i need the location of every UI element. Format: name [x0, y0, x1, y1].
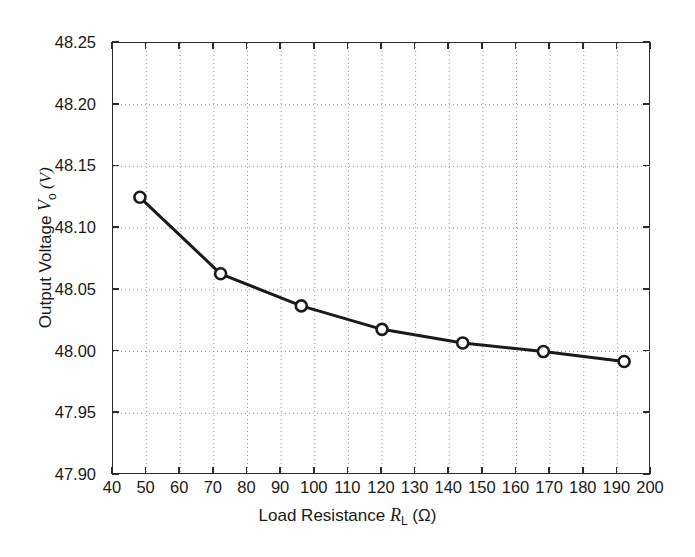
x-axis-tick: [447, 467, 449, 474]
x-axis-tick: [212, 467, 214, 474]
y-axis-tick: [643, 411, 650, 413]
x-axis-tick: [414, 42, 416, 49]
x-axis-tick: [246, 467, 248, 474]
x-tick-label: 200: [620, 478, 680, 497]
plot-area: [112, 42, 650, 474]
x-axis-tick: [313, 467, 315, 474]
y-axis-tick: [112, 288, 119, 290]
y-axis-tick: [112, 350, 119, 352]
y-axis-label-unit: (V): [36, 167, 55, 193]
y-axis-label-subscript: o: [45, 193, 59, 200]
x-axis-tick: [178, 467, 180, 474]
data-point-marker: [619, 356, 630, 367]
x-axis-tick: [347, 42, 349, 49]
y-axis-tick: [112, 41, 119, 43]
x-axis-tick: [145, 467, 147, 474]
y-axis-label-symbol: V: [35, 200, 55, 211]
y-axis-tick: [643, 473, 650, 475]
data-point-marker: [215, 268, 226, 279]
figure-canvas: 47.9047.9548.0048.0548.1048.1548.2048.25…: [0, 0, 695, 557]
x-axis-tick: [447, 42, 449, 49]
x-axis-tick: [582, 467, 584, 474]
y-axis-tick: [643, 226, 650, 228]
y-axis-label: Output Voltage Vo (V): [35, 32, 58, 464]
y-axis-tick: [643, 103, 650, 105]
x-axis-tick: [178, 42, 180, 49]
x-axis-tick: [616, 42, 618, 49]
x-axis-tick: [347, 467, 349, 474]
x-axis-tick: [548, 42, 550, 49]
x-axis-tick: [616, 467, 618, 474]
x-axis-tick: [515, 42, 517, 49]
x-axis-tick: [279, 467, 281, 474]
x-axis-label-text: Load Resistance: [259, 506, 390, 525]
x-axis-label-unit: (Ω): [408, 506, 437, 525]
x-axis-tick: [481, 42, 483, 49]
x-axis-label: Load Resistance RL (Ω): [0, 505, 695, 528]
data-point-marker: [377, 324, 388, 335]
y-axis-tick: [643, 41, 650, 43]
x-axis-tick: [582, 42, 584, 49]
y-axis-tick: [643, 165, 650, 167]
data-point-marker: [296, 300, 307, 311]
y-axis-tick: [112, 411, 119, 413]
x-axis-tick: [111, 42, 113, 49]
y-axis-tick: [643, 288, 650, 290]
x-axis-tick: [481, 467, 483, 474]
data-point-marker: [457, 337, 468, 348]
y-axis-tick: [112, 165, 119, 167]
x-axis-tick: [279, 42, 281, 49]
x-axis-label-symbol: R: [390, 505, 401, 525]
x-axis-tick: [380, 467, 382, 474]
x-axis-tick: [414, 467, 416, 474]
x-axis-tick: [145, 42, 147, 49]
y-axis-tick: [112, 226, 119, 228]
data-point-marker: [134, 192, 145, 203]
y-axis-label-text: Output Voltage: [36, 211, 55, 328]
data-line: [140, 197, 624, 361]
y-axis-tick: [643, 350, 650, 352]
x-axis-tick: [212, 42, 214, 49]
x-axis-tick: [649, 42, 651, 49]
y-axis-tick: [112, 473, 119, 475]
data-point-marker: [538, 346, 549, 357]
x-axis-tick: [548, 467, 550, 474]
x-axis-tick: [246, 42, 248, 49]
x-axis-label-subscript: L: [401, 514, 408, 528]
x-axis-tick: [515, 467, 517, 474]
data-series-layer: [113, 43, 651, 475]
x-axis-tick: [313, 42, 315, 49]
y-axis-tick: [112, 103, 119, 105]
x-axis-tick: [380, 42, 382, 49]
